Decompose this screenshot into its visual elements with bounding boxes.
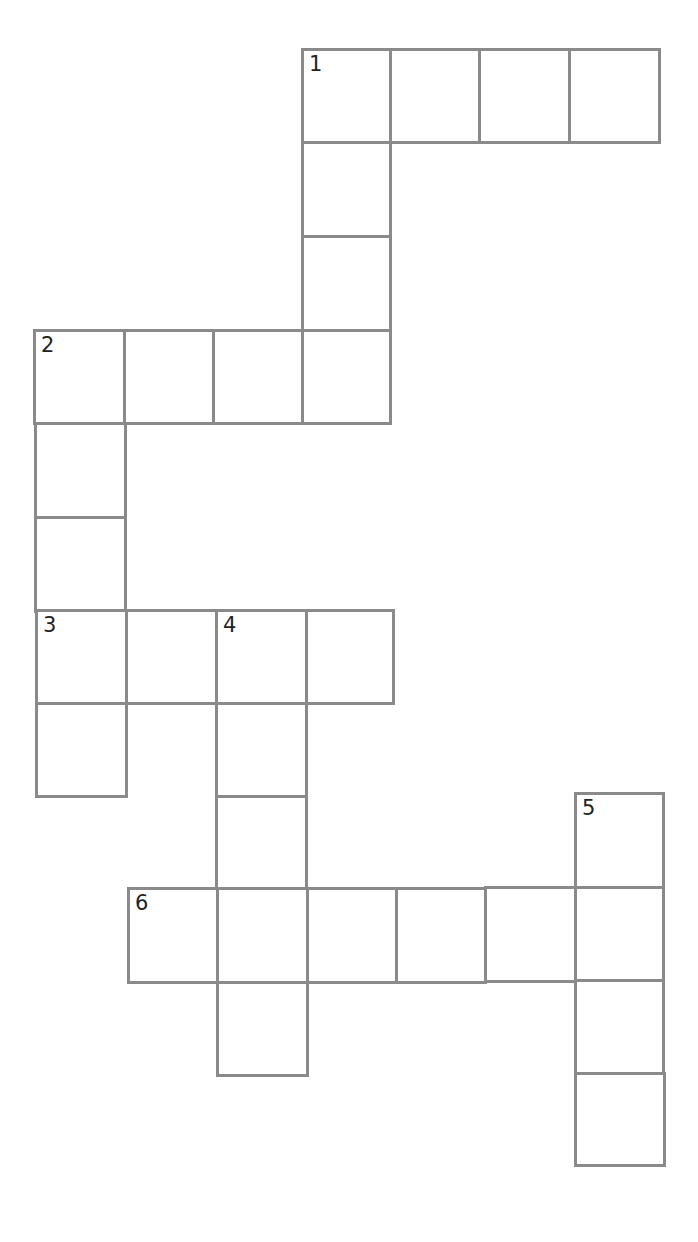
crossword-cell[interactable] [389,48,481,144]
letter-input[interactable] [577,795,662,886]
crossword-cell[interactable] [123,329,215,425]
letter-input[interactable] [38,705,125,795]
letter-input[interactable] [304,144,389,235]
letter-input[interactable] [38,612,125,702]
letter-input[interactable] [219,984,306,1074]
letter-input[interactable] [126,332,212,422]
letter-input[interactable] [398,890,484,981]
crossword-cell[interactable] [212,329,304,425]
letter-input[interactable] [128,612,215,702]
crossword-cell[interactable] [301,329,392,425]
letter-input[interactable] [487,889,574,980]
letter-input[interactable] [219,890,306,981]
letter-input[interactable] [571,51,658,141]
letter-input[interactable] [218,798,305,887]
crossword-cell[interactable] [215,702,308,798]
letter-input[interactable] [481,51,568,141]
crossword-cell[interactable]: 3 [35,609,128,705]
letter-input[interactable] [215,332,301,422]
crossword-cell[interactable] [484,886,577,983]
crossword-cell[interactable] [216,887,309,984]
letter-input[interactable] [577,1075,663,1164]
letter-input[interactable] [218,705,305,795]
letter-input[interactable] [577,889,662,979]
crossword-cell[interactable] [301,141,392,238]
crossword-cell[interactable] [216,981,309,1077]
crossword-cell[interactable] [306,887,398,984]
crossword-cell[interactable] [395,887,487,984]
letter-input[interactable] [130,890,217,981]
crossword-cell[interactable] [568,48,661,144]
crossword-cell[interactable] [574,886,665,982]
crossword-cell[interactable] [478,48,571,144]
crossword-board: 123456 [0,0,698,1242]
letter-input[interactable] [304,238,389,329]
crossword-cell[interactable]: 5 [574,792,665,889]
crossword-cell[interactable] [34,422,127,519]
crossword-cell[interactable]: 6 [127,887,220,984]
letter-input[interactable] [577,982,662,1072]
crossword-cell[interactable] [574,1072,666,1167]
crossword-cell[interactable] [301,235,392,332]
crossword-cell[interactable] [35,702,128,798]
letter-input[interactable] [392,51,478,141]
crossword-cell[interactable] [34,516,127,613]
letter-input[interactable] [309,890,395,981]
letter-input[interactable] [304,332,389,422]
crossword-cell[interactable] [574,979,665,1075]
crossword-cell[interactable]: 1 [301,48,392,144]
letter-input[interactable] [37,519,124,610]
crossword-cell[interactable] [215,795,308,890]
crossword-cell[interactable] [125,609,218,705]
letter-input[interactable] [36,332,123,422]
letter-input[interactable] [308,612,392,702]
letter-input[interactable] [218,612,305,702]
letter-input[interactable] [304,51,389,141]
crossword-cell[interactable]: 4 [215,609,308,705]
crossword-cell[interactable] [305,609,395,705]
crossword-cell[interactable]: 2 [33,329,126,425]
letter-input[interactable] [37,425,124,516]
